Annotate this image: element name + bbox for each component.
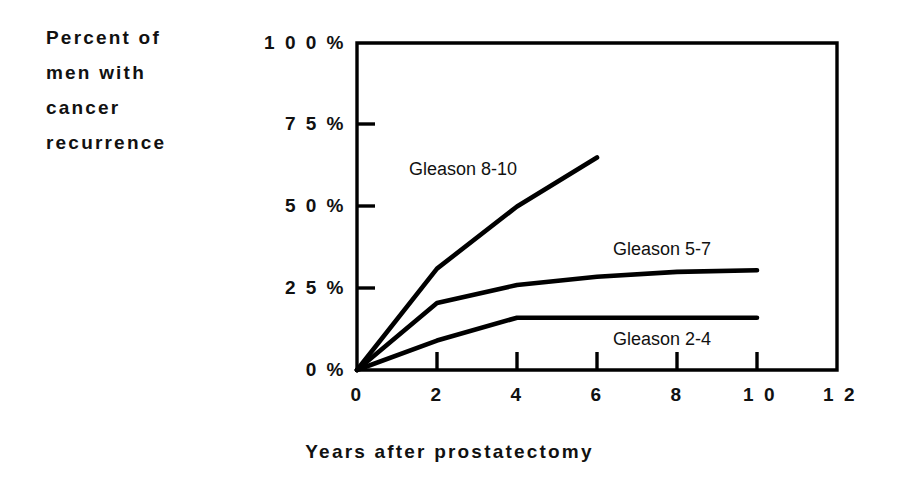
chart-figure: Percent of men with cancer recurrence 1 …: [0, 0, 899, 499]
series-label-gleason-5-7: Gleason 5-7: [613, 239, 711, 260]
series-label-gleason-2-4: Gleason 2-4: [613, 329, 711, 350]
y-axis-ticks: [357, 124, 375, 288]
plot-area: [0, 0, 899, 499]
x-axis-title: Years after prostatectomy: [0, 441, 899, 463]
series-line-gleason-5-7: [357, 270, 757, 370]
axis-frame: [357, 43, 837, 370]
x-axis-ticks: [437, 352, 757, 370]
series-label-gleason-8-10: Gleason 8-10: [409, 159, 517, 180]
